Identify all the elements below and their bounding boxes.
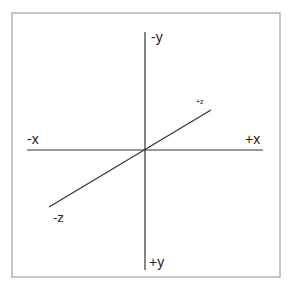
label-pos-z: +z [196,98,204,105]
label-pos-y: +y [149,255,164,269]
z-axis [49,110,211,207]
diagram-frame [12,13,280,277]
label-neg-z: -z [53,211,64,224]
label-neg-x: -x [27,132,39,146]
label-neg-y: -y [151,30,163,44]
label-pos-x: +x [245,132,260,146]
